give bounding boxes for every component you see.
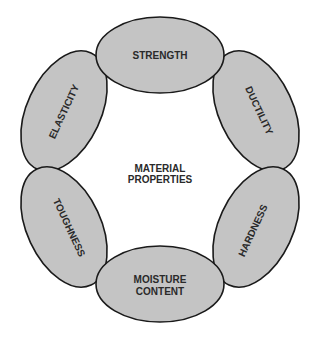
center-label-line1: MATERIAL: [135, 163, 186, 174]
material-properties-diagram: STRENGTH DUCTILITY HARDNESS MOISTURE CON…: [0, 0, 321, 339]
label-content: CONTENT: [136, 286, 184, 297]
center-label-line2: PROPERTIES: [128, 174, 193, 185]
label-moisture: MOISTURE: [134, 274, 187, 285]
label-strength: STRENGTH: [133, 50, 188, 61]
